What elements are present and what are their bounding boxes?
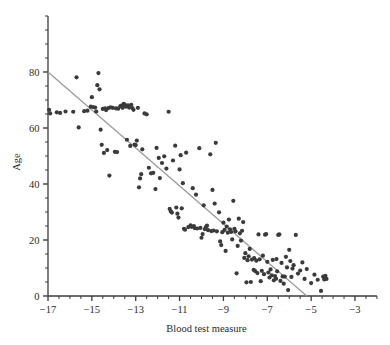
scatter-point — [160, 161, 164, 165]
scatter-point — [302, 277, 306, 281]
scatter-point — [145, 112, 149, 116]
x-axis-title: Blood test measure — [166, 323, 247, 334]
scatter-point — [312, 273, 316, 277]
scatter-point — [279, 261, 283, 265]
scatter-point — [95, 83, 99, 87]
scatter-point — [305, 267, 309, 271]
scatter-point — [140, 147, 144, 151]
scatter-point — [286, 288, 290, 292]
y-tick-label: 20 — [29, 235, 40, 246]
scatter-point — [179, 153, 183, 157]
scatter-point — [262, 272, 266, 276]
scatter-point — [202, 203, 206, 207]
y-tick-label: 60 — [29, 123, 40, 134]
scatter-point — [284, 255, 288, 259]
scatter-point — [288, 259, 292, 263]
scatter-point — [283, 275, 287, 279]
scatter-point — [289, 275, 293, 279]
scatter-point — [236, 244, 240, 248]
scatter-point — [100, 143, 104, 147]
scatter-point — [243, 251, 247, 255]
scatter-point — [107, 174, 111, 178]
scatter-point — [225, 224, 229, 228]
scatter-point — [300, 260, 304, 264]
x-tick-label: −3 — [349, 304, 360, 315]
scatter-point — [255, 271, 259, 275]
y-tick-label: 40 — [29, 179, 40, 190]
scatter-plot-figure: 020406080−17−15−13−11−9−7−5−3Blood test … — [0, 0, 390, 345]
scatter-point — [85, 109, 89, 113]
scatter-point — [180, 206, 184, 210]
scatter-point — [162, 154, 166, 158]
x-tick-label: −5 — [306, 304, 317, 315]
scatter-point — [136, 106, 140, 110]
scatter-point — [175, 212, 179, 216]
scatter-point — [271, 258, 275, 262]
scatter-point — [205, 224, 209, 228]
scatter-point — [177, 167, 181, 171]
scatter-point — [227, 217, 231, 221]
scatter-point — [278, 279, 282, 283]
scatter-point — [58, 111, 62, 115]
scatter-point — [309, 281, 313, 285]
scatter-point — [210, 188, 214, 192]
scatter-point — [71, 110, 75, 114]
scatter-point — [282, 282, 286, 286]
scatter-point — [234, 271, 238, 275]
scatter-point — [184, 151, 188, 155]
y-tick-label: 80 — [29, 67, 40, 78]
scatter-point — [167, 110, 171, 114]
scatter-point — [221, 221, 225, 225]
x-tick-label: −17 — [40, 304, 56, 315]
scatter-point — [157, 156, 161, 160]
scatter-point — [237, 217, 241, 221]
scatter-point — [158, 176, 162, 180]
scatter-point — [319, 289, 323, 293]
scatter-point — [268, 267, 272, 271]
scatter-point — [122, 102, 126, 106]
scatter-point — [298, 268, 302, 272]
scatter-point — [274, 277, 278, 281]
scatter-point — [239, 238, 243, 242]
scatter-point — [229, 230, 233, 234]
scatter-point — [94, 109, 98, 113]
scatter-point — [233, 229, 237, 233]
scatter-point — [208, 152, 212, 156]
scatter-point — [164, 167, 168, 171]
scatter-point — [199, 236, 203, 240]
scatter-point — [197, 146, 201, 150]
scatter-point — [102, 151, 106, 155]
scatter-point — [97, 87, 101, 91]
scatter-points-group — [47, 71, 329, 293]
scatter-point — [181, 181, 185, 185]
scatter-point — [151, 171, 155, 175]
scatter-point — [252, 268, 256, 272]
scatter-point — [275, 269, 279, 273]
scatter-point — [105, 148, 109, 152]
scatter-point — [287, 248, 291, 252]
y-tick-label: 0 — [34, 291, 39, 302]
scatter-point — [183, 228, 187, 232]
scatter-point — [90, 95, 94, 99]
scatter-point — [274, 257, 278, 261]
x-tick-label: −9 — [218, 304, 229, 315]
scatter-point — [134, 143, 138, 147]
scatter-point — [294, 233, 298, 237]
scatter-point — [231, 199, 235, 203]
scatter-point — [214, 141, 218, 145]
scatter-point — [244, 280, 248, 284]
x-tick-label: −13 — [128, 304, 144, 315]
scatter-point — [173, 144, 177, 148]
scatter-point — [249, 280, 253, 284]
scatter-point — [96, 71, 100, 75]
scatter-point — [285, 265, 289, 269]
scatter-point — [259, 279, 263, 283]
scatter-point — [256, 232, 260, 236]
scatter-point — [138, 176, 142, 180]
scatter-point — [241, 220, 245, 224]
scatter-point — [125, 138, 129, 142]
scatter-point — [137, 185, 141, 189]
scatter-point — [265, 260, 269, 264]
scatter-point — [176, 216, 180, 220]
x-tick-label: −7 — [262, 304, 273, 315]
